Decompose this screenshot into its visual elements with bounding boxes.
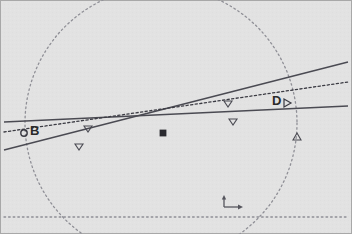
geometry-svg	[0, 0, 352, 234]
point-d-label: D	[272, 94, 281, 107]
background-plate	[0, 0, 352, 234]
point-b-label: B	[30, 124, 39, 137]
intersection-point-marker	[160, 130, 166, 136]
diagram-canvas: B D	[0, 0, 352, 234]
